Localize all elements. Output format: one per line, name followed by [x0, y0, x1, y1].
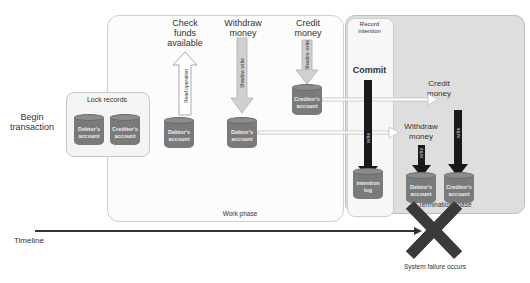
- debtor-to-withdraw-connector: [258, 127, 399, 138]
- db-label: Debtor's account: [406, 184, 436, 198]
- db-label: Debtor's account: [74, 126, 104, 140]
- credit-write-arrow: [448, 110, 468, 177]
- lock-debtor-account-db: Debtor's account: [74, 114, 104, 148]
- db-label: Creditor's account: [292, 96, 322, 110]
- read-operation-label: Read operation: [183, 61, 189, 111]
- db-label: Debtor's account: [227, 129, 257, 143]
- db-label: intention log: [353, 180, 383, 194]
- timeline-arrow: [35, 227, 422, 235]
- shadow-write-credit-label: Shadow write: [304, 30, 310, 80]
- creditor-to-credit-connector: [322, 94, 438, 105]
- withdraw-debtor-account-db: Debtor's account: [227, 117, 257, 151]
- credit-creditor-account-db: Creditor's account: [292, 84, 322, 118]
- withdraw-write-label: write: [418, 143, 424, 163]
- lock-creditor-account-db: Creditor's account: [110, 114, 140, 148]
- shadow-write-withdraw-label: Shadow write: [239, 48, 245, 98]
- db-label: Creditor's account: [110, 126, 140, 140]
- db-label: Debtor's account: [164, 129, 194, 143]
- term-debtor-account-db: Debtor's account: [406, 172, 436, 206]
- credit-write-label: write: [455, 123, 461, 143]
- check-debtor-account-db: Debtor's account: [164, 117, 194, 151]
- commit-write-label: write: [365, 128, 371, 148]
- db-label: Creditor's account: [444, 184, 474, 198]
- intention-log-db: intention log: [353, 168, 383, 202]
- term-creditor-account-db: Creditor's account: [444, 172, 474, 206]
